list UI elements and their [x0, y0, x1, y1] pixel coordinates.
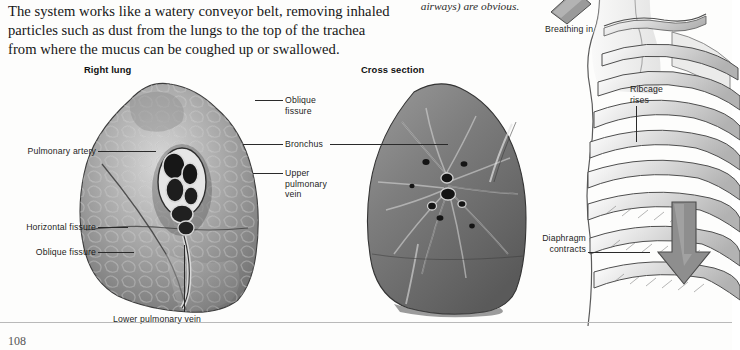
label-upper-pulmonary-vein: Upper pulmonary vein — [285, 168, 347, 200]
figure-caption-italic: airways) are obvious. — [400, 0, 540, 13]
body-line-3: from where the mucus can be coughed up o… — [8, 40, 438, 59]
leader-oblique-fissure-mid — [255, 100, 283, 101]
leader-ribcage-rises — [636, 106, 637, 142]
label-ribcage-rises: Ribcage rises — [630, 84, 678, 105]
label-lower-pulmonary-vein: Lower pulmonary vein — [113, 314, 243, 325]
label-breathing-in: Breathing in — [545, 24, 625, 35]
leader-horizontal-fissure — [98, 227, 128, 228]
label-oblique-fissure-mid: Oblique fissure — [285, 95, 347, 116]
heading-cross-section: Cross section — [361, 64, 424, 75]
body-line-1: The system works like a watery conveyor … — [8, 2, 438, 21]
label-pulmonary-artery: Pulmonary artery — [0, 146, 96, 157]
ribcage-torso-illustration — [560, 0, 740, 330]
leader-oblique-fissure-left — [98, 252, 134, 253]
label-horizontal-fissure: Horizontal fissure — [0, 222, 96, 233]
body-paragraph: The system works like a watery conveyor … — [8, 2, 438, 59]
body-line-2: particles such as dust from the lungs to… — [8, 21, 438, 40]
heading-right-lung: Right lung — [84, 64, 131, 75]
leader-pulmonary-artery — [98, 151, 156, 152]
breathing-in-arrow — [545, 0, 597, 26]
leader-diaphragm-contracts — [588, 252, 650, 253]
leader-lower-pulmonary-vein — [184, 245, 185, 312]
leader-upper-pulmonary-vein — [253, 173, 283, 174]
label-oblique-fissure-left: Oblique fissure — [0, 247, 96, 258]
leader-bronchus-right — [330, 144, 448, 145]
page-number: 108 — [8, 334, 26, 349]
footer-rule — [0, 322, 732, 323]
leader-bronchus-left — [243, 144, 283, 145]
right-lung-illustration — [70, 78, 295, 318]
cross-section-illustration — [360, 78, 555, 323]
label-diaphragm-contracts: Diaphragm contracts — [520, 233, 586, 254]
